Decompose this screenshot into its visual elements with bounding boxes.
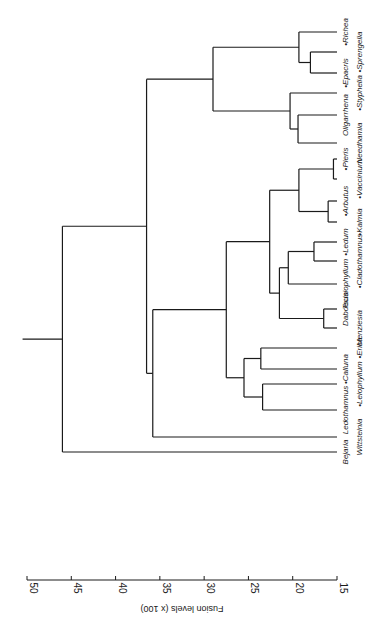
- leaf-label: Wittsteinia: [355, 418, 364, 455]
- leaf-label: •Vaccinium: [355, 159, 364, 199]
- dendrogram-chart: •Richea•Sprengelia•Epacris•StypheliaOlig…: [0, 0, 383, 640]
- leaf-label: •Sprengelia: [355, 31, 364, 73]
- leaf-label: •Arbutus: [341, 186, 350, 216]
- fusion-level-axis: 5045403530252015: [27, 576, 349, 594]
- dendrogram-branches: [23, 32, 337, 452]
- axis-tick-label: 50: [28, 582, 39, 594]
- leaf-label: •Epacris: [341, 58, 350, 87]
- leaf-label: Daboecia: [341, 292, 350, 326]
- leaf-label: •Ledum: [341, 228, 350, 256]
- leaf-label: •Leiophyllum: [355, 361, 364, 407]
- leaf-label: Oligarrhena: [341, 94, 350, 136]
- axis-tick-label: 45: [72, 582, 83, 594]
- axis-tick-label: 20: [294, 582, 305, 594]
- leaf-label: •Cladothamnus: [355, 234, 364, 288]
- leaf-label: Ledothamnus: [341, 386, 350, 434]
- leaf-label: Bejaria: [341, 439, 350, 464]
- axis-title: Fusion levels (x 100): [140, 604, 223, 614]
- leaf-label: •Calluna: [341, 353, 350, 383]
- leaf-label: •Richea: [341, 18, 350, 46]
- leaf-label: •Pieris: [341, 148, 350, 171]
- axis-tick-label: 25: [249, 582, 260, 594]
- leaf-label: •Styphelia: [355, 75, 364, 111]
- leaf-label: •Kalmia: [355, 208, 364, 236]
- leaf-labels: •Richea•Sprengelia•Epacris•StypheliaOlig…: [341, 18, 364, 465]
- axis-tick-label: 35: [161, 582, 172, 594]
- leaf-label: •Erica: [355, 337, 364, 359]
- leaf-label: Needhamia: [355, 122, 364, 163]
- axis-tick-label: 30: [205, 582, 216, 594]
- axis-tick-label: 15: [338, 582, 349, 594]
- axis-tick-label: 40: [117, 582, 128, 594]
